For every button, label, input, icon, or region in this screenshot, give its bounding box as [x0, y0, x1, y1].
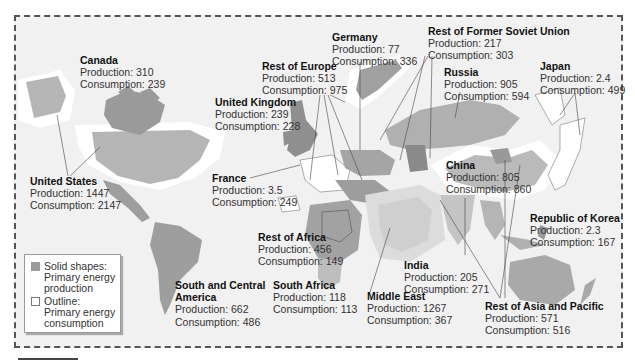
label-russia: Russia Production: 905 Consumption: 594	[444, 66, 529, 103]
label-united-kingdom: United Kingdom Production: 239 Consumpti…	[215, 96, 300, 133]
label-united-states: United States Production: 1447 Consumpti…	[30, 175, 121, 212]
footer-rule	[18, 358, 78, 360]
label-germany: Germany Production: 77 Consumption: 336	[332, 31, 417, 68]
label-canada: Canada Production: 310 Consumption: 239	[80, 54, 165, 91]
middle-east-shapes	[365, 185, 445, 262]
outline-swatch-icon	[31, 297, 40, 306]
label-rest-of-africa: Rest of Africa Production: 456 Consumpti…	[258, 231, 343, 268]
label-middle-east: Middle East Production: 1267 Consumption…	[367, 290, 452, 327]
label-south-and-central-america: South and Central America Production: 66…	[175, 279, 265, 328]
oceania-shapes	[508, 255, 596, 305]
label-japan: Japan Production: 2.4 Consumption: 499	[540, 60, 625, 97]
label-south-africa: South Africa Production: 118 Consumption…	[273, 279, 357, 316]
solid-swatch-icon	[31, 262, 40, 271]
map-legend: Solid shapes: Primary energy production …	[24, 254, 121, 333]
label-rest-of-asia-and-pacific: Rest of Asia and Pacific Production: 571…	[485, 300, 604, 337]
label-china: China Production: 805 Consumption: 860	[446, 159, 531, 196]
label-rest-of-former-soviet-union: Rest of Former Soviet Union Production: …	[428, 25, 570, 62]
label-france: France Production: 3.5 Consumption: 249	[212, 172, 297, 209]
label-republic-of-korea: Republic of Korea Production: 2.3 Consum…	[530, 212, 620, 249]
